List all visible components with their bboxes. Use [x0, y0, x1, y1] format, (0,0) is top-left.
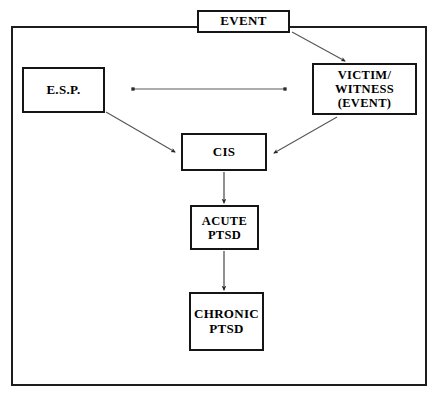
node-cis[interactable]: CIS: [181, 133, 267, 171]
node-esp[interactable]: E.S.P.: [22, 67, 105, 113]
node-event[interactable]: EVENT: [197, 10, 290, 33]
diagram-canvas: EVENT E.S.P. VICTIM/ WITNESS (EVENT) CIS…: [0, 0, 442, 402]
node-victim-witness-label: VICTIM/ WITNESS (EVENT): [333, 68, 396, 110]
node-chronic-ptsd-label: CHRONIC PTSD: [192, 307, 261, 336]
node-esp-label: E.S.P.: [44, 83, 82, 98]
node-event-label: EVENT: [218, 14, 268, 29]
node-acute-ptsd-label: ACUTE PTSD: [200, 214, 249, 242]
node-victim-witness[interactable]: VICTIM/ WITNESS (EVENT): [312, 63, 417, 115]
node-cis-label: CIS: [211, 145, 238, 160]
node-acute-ptsd[interactable]: ACUTE PTSD: [190, 205, 259, 250]
node-chronic-ptsd[interactable]: CHRONIC PTSD: [189, 292, 264, 351]
